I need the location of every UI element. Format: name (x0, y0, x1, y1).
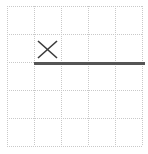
canvas-background (0, 0, 148, 154)
grid-diagram-svg (0, 0, 148, 154)
drawing-canvas (0, 0, 148, 154)
